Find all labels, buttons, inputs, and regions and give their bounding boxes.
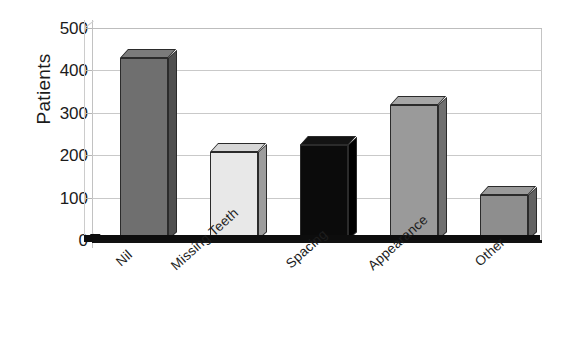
bar-nil[interactable]: [120, 58, 168, 240]
y-tick-label-100: 100: [42, 190, 88, 207]
y-tick-label-500: 500: [42, 20, 88, 37]
bar-appearance-side-face: [438, 97, 447, 240]
bar-other-side-face: [528, 187, 537, 240]
bar-nil-side-face: [168, 50, 177, 240]
bar-nil-front-face: [120, 58, 168, 240]
y-axis-back-line: [84, 20, 85, 240]
bar-spacing[interactable]: [300, 145, 348, 240]
bar-chart: Patients 500 400 300 200 100 0: [0, 0, 580, 342]
gridline-500: [92, 28, 542, 29]
bar-other[interactable]: [480, 195, 528, 240]
bar-other-front-face: [480, 195, 528, 240]
y-tick-label-300: 300: [42, 105, 88, 122]
y-tick-label-200: 200: [42, 147, 88, 164]
bar-missing-teeth-side-face: [258, 144, 267, 240]
plot-area: [92, 28, 542, 240]
bar-spacing-front-face: [300, 145, 348, 240]
y-tick-label-0: 0: [42, 232, 88, 249]
bar-spacing-side-face: [348, 137, 357, 240]
x-tick-label-nil: Nil: [113, 247, 135, 269]
y-axis-tick-labels: 500 400 300 200 100 0: [42, 0, 88, 342]
y-tick-label-400: 400: [42, 62, 88, 79]
